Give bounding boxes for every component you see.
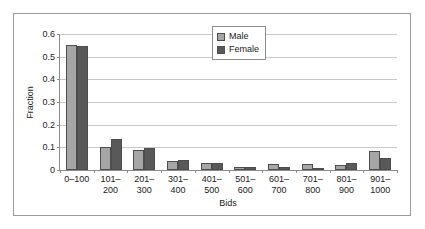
bar-female bbox=[313, 168, 324, 170]
x-tick-mark bbox=[296, 170, 297, 173]
x-tick-label: 901–1000 bbox=[360, 174, 400, 195]
bar-male bbox=[369, 151, 380, 170]
x-tick-mark bbox=[195, 170, 196, 173]
y-tick-label: 0.1 bbox=[42, 143, 55, 152]
x-tick-mark bbox=[229, 170, 230, 173]
bar-male bbox=[167, 161, 178, 170]
bar-female bbox=[111, 139, 122, 171]
bar-male bbox=[201, 163, 212, 170]
bar-female bbox=[279, 167, 290, 170]
y-axis-title: Fraction bbox=[23, 34, 37, 171]
y-tick-label: 0.4 bbox=[42, 75, 55, 84]
chart-frame: Fraction 00.10.20.30.40.50.6 0–100101–20… bbox=[13, 13, 411, 216]
legend-item-female: Female bbox=[217, 43, 259, 56]
legend-item-male: Male bbox=[217, 30, 259, 43]
bar-male bbox=[234, 167, 245, 170]
bar-female bbox=[380, 158, 391, 170]
y-tick-label: 0.2 bbox=[42, 120, 55, 129]
y-tick-label: 0.5 bbox=[42, 52, 55, 61]
legend-label-female: Female bbox=[229, 45, 259, 54]
bar-male bbox=[133, 150, 144, 170]
x-tick-mark bbox=[60, 170, 61, 173]
x-tick-mark bbox=[397, 170, 398, 173]
bar-female bbox=[178, 160, 189, 170]
chart-legend: Male Female bbox=[212, 26, 266, 60]
legend-swatch-female-icon bbox=[217, 46, 225, 54]
bar-male bbox=[302, 164, 313, 170]
bar-male bbox=[268, 164, 279, 170]
x-tick-mark bbox=[161, 170, 162, 173]
legend-label-male: Male bbox=[229, 32, 249, 41]
bar-female bbox=[346, 163, 357, 170]
bar-male bbox=[66, 45, 77, 170]
y-tick-label: 0.3 bbox=[42, 98, 55, 107]
x-tick-mark bbox=[262, 170, 263, 173]
bar-female bbox=[77, 46, 88, 170]
y-tick-label: 0 bbox=[50, 166, 55, 175]
y-tick-label: 0.6 bbox=[42, 30, 55, 39]
legend-swatch-male-icon bbox=[217, 33, 225, 41]
x-tick-mark bbox=[94, 170, 95, 173]
bar-male bbox=[335, 165, 346, 170]
bar-female bbox=[245, 167, 256, 170]
x-tick-mark bbox=[330, 170, 331, 173]
bar-female bbox=[212, 163, 223, 170]
x-tick-mark bbox=[363, 170, 364, 173]
x-axis-title: Bids bbox=[59, 198, 397, 208]
bar-male bbox=[100, 147, 111, 170]
bar-female bbox=[144, 148, 155, 170]
x-tick-mark bbox=[127, 170, 128, 173]
